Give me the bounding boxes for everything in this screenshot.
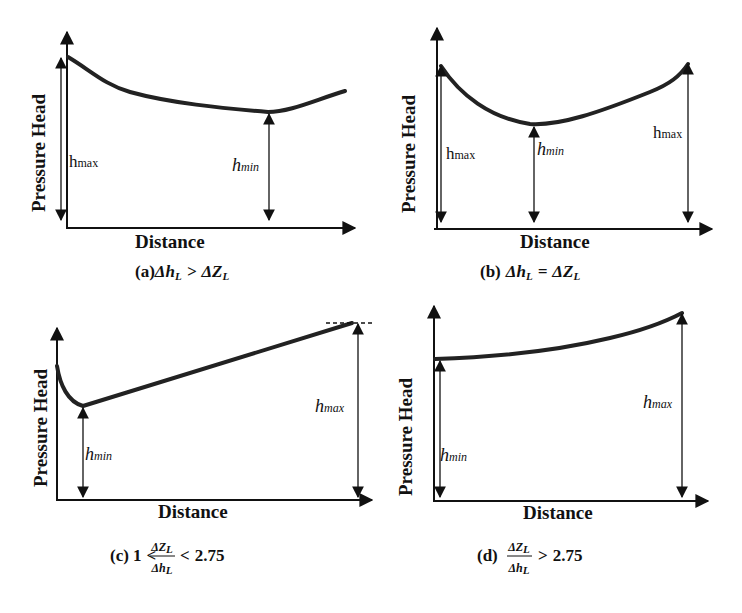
- hmin-label: hmin: [85, 444, 112, 464]
- hmin-label: hmin: [440, 445, 467, 465]
- svg-text:ΔhL: ΔhL: [151, 561, 173, 576]
- hmax-label: hmax: [643, 392, 673, 412]
- x-axis-label: Distance: [158, 501, 228, 522]
- pressure-curve: [68, 57, 345, 112]
- svg-text:(d): (d): [477, 546, 498, 565]
- panel-a: Pressure Head Distance hmax hmin (a)ΔhL>…: [28, 32, 355, 282]
- pressure-curve: [441, 64, 688, 124]
- y-axis-label: Pressure Head: [28, 94, 49, 212]
- hmax-left-label: hmax: [446, 144, 475, 163]
- pressure-head-diagram: Pressure Head Distance hmax hmin (a)ΔhL>…: [0, 0, 742, 613]
- y-axis-label: Pressure Head: [398, 95, 419, 213]
- pressure-curve: [435, 313, 682, 359]
- svg-text:ΔZL: ΔZL: [150, 540, 173, 555]
- hmin-label: hmin: [232, 155, 259, 175]
- x-axis-label: Distance: [523, 502, 593, 523]
- hmax-label: hmax: [69, 152, 98, 171]
- hmax-right-label: hmax: [653, 123, 682, 142]
- caption-c: (c)1< ΔZL ΔhL <2.75: [110, 540, 224, 576]
- svg-text:>2.75: >2.75: [538, 546, 582, 565]
- y-axis-label: Pressure Head: [395, 378, 416, 496]
- x-axis-label: Distance: [520, 231, 590, 252]
- hmax-label: hmax: [315, 396, 345, 416]
- caption-a: (a)ΔhL>ΔZL: [135, 262, 229, 282]
- x-axis-label: Distance: [135, 231, 205, 252]
- hmin-label: hmin: [537, 139, 564, 159]
- pressure-curve: [57, 323, 352, 406]
- svg-text:(c)1<: (c)1<: [110, 546, 156, 565]
- svg-text:ΔZL: ΔZL: [507, 540, 530, 555]
- svg-text:<2.75: <2.75: [180, 546, 224, 565]
- panel-d: Pressure Head Distance hmin hmax (d) ΔZL…: [395, 306, 708, 576]
- caption-d: (d) ΔZL ΔhL >2.75: [477, 540, 582, 576]
- svg-text:ΔhL: ΔhL: [508, 561, 530, 576]
- panel-c: Pressure Head Distance hmin hmax (c)1< Δ…: [30, 323, 372, 576]
- caption-b: (b)ΔhL=ΔZL: [480, 262, 580, 282]
- panel-b: Pressure Head Distance hmax hmin hmax (b…: [398, 28, 712, 282]
- y-axis-label: Pressure Head: [30, 369, 51, 487]
